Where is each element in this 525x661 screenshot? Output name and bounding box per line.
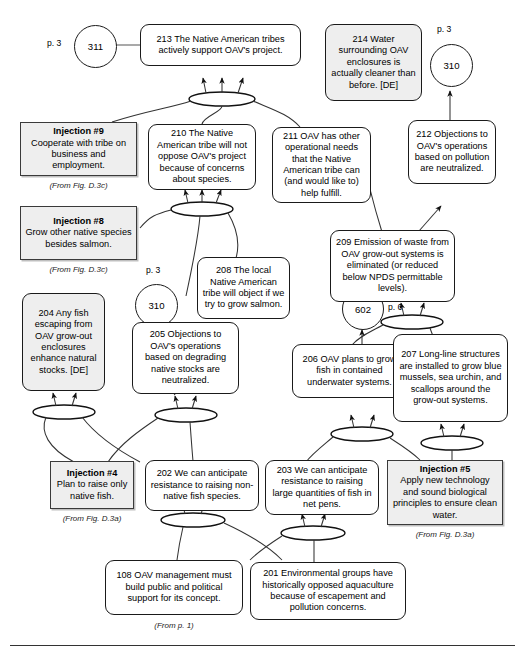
page-tag-310-top: p. 3 bbox=[437, 24, 451, 34]
footer-rule bbox=[10, 645, 515, 646]
node-204[interactable]: 204 Any fish escaping from OAV grow-out … bbox=[22, 293, 105, 391]
caption-injection-5: (From Fig. D.3a) bbox=[387, 530, 503, 539]
diagram-canvas: p. 3 311 p. 3 310 p. 3 310 602 p. 6 213 … bbox=[0, 0, 525, 661]
connector-circle-311[interactable]: 311 bbox=[74, 25, 117, 68]
injection-9-text: Cooperate with tribe on business and emp… bbox=[25, 138, 132, 172]
connector-circle-310-mid[interactable]: 310 bbox=[135, 284, 178, 327]
connector-circle-310-top[interactable]: 310 bbox=[430, 44, 473, 87]
injection-8-title: Injection #8 bbox=[25, 216, 132, 227]
node-211[interactable]: 211 OAV has other operational needs that… bbox=[272, 127, 371, 203]
node-210[interactable]: 210 The Native American tribe will not o… bbox=[148, 124, 256, 190]
injection-4-title: Injection #4 bbox=[55, 468, 129, 479]
node-214[interactable]: 214 Water surrounding OAV enclosures is … bbox=[325, 24, 422, 101]
node-injection-9[interactable]: Injection #9 Cooperate with tribe on bus… bbox=[20, 122, 137, 176]
node-213[interactable]: 213 The Native American tribes actively … bbox=[140, 24, 301, 66]
node-209[interactable]: 209 Emission of waste from OAV grow-out … bbox=[330, 230, 455, 302]
node-205[interactable]: 205 Objections to OAV's operations based… bbox=[132, 322, 239, 394]
node-injection-5[interactable]: Injection #5 Apply new technology and so… bbox=[387, 460, 503, 525]
caption-injection-8: (From Fig. D.3c) bbox=[20, 265, 137, 274]
page-tag-311: p. 3 bbox=[47, 38, 61, 48]
injection-9-title: Injection #9 bbox=[25, 126, 132, 137]
page-tag-310-mid: p. 3 bbox=[146, 265, 160, 275]
node-201[interactable]: 201 Environmental groups have historical… bbox=[250, 562, 406, 620]
injection-5-text: Apply new technology and sound biologica… bbox=[392, 475, 498, 521]
node-212[interactable]: 212 Objections to OAV's operations based… bbox=[408, 120, 496, 184]
caption-injection-4: (From Fig. D.3a) bbox=[50, 514, 134, 523]
node-202[interactable]: 202 We can anticipate resistance to rais… bbox=[145, 460, 259, 511]
node-203[interactable]: 203 We can anticipate resistance to rais… bbox=[265, 460, 379, 515]
page-tag-602: p. 6 bbox=[388, 302, 402, 312]
caption-injection-9: (From Fig. D.3c) bbox=[20, 181, 137, 190]
node-207[interactable]: 207 Long-line structures are installed t… bbox=[393, 334, 508, 422]
injection-8-text: Grow other native species besides salmon… bbox=[25, 227, 132, 250]
caption-108: (From p. 1) bbox=[105, 621, 243, 630]
node-injection-4[interactable]: Injection #4 Plan to raise only native f… bbox=[50, 461, 134, 509]
node-108[interactable]: 108 OAV management must build public and… bbox=[105, 560, 243, 615]
node-208[interactable]: 208 The local Native American tribe will… bbox=[197, 257, 290, 319]
injection-5-title: Injection #5 bbox=[392, 464, 498, 475]
node-injection-8[interactable]: Injection #8 Grow other native species b… bbox=[20, 206, 137, 260]
injection-4-text: Plan to raise only native fish. bbox=[55, 479, 129, 502]
node-206[interactable]: 206 OAV plans to grow fish in contained … bbox=[292, 344, 407, 398]
